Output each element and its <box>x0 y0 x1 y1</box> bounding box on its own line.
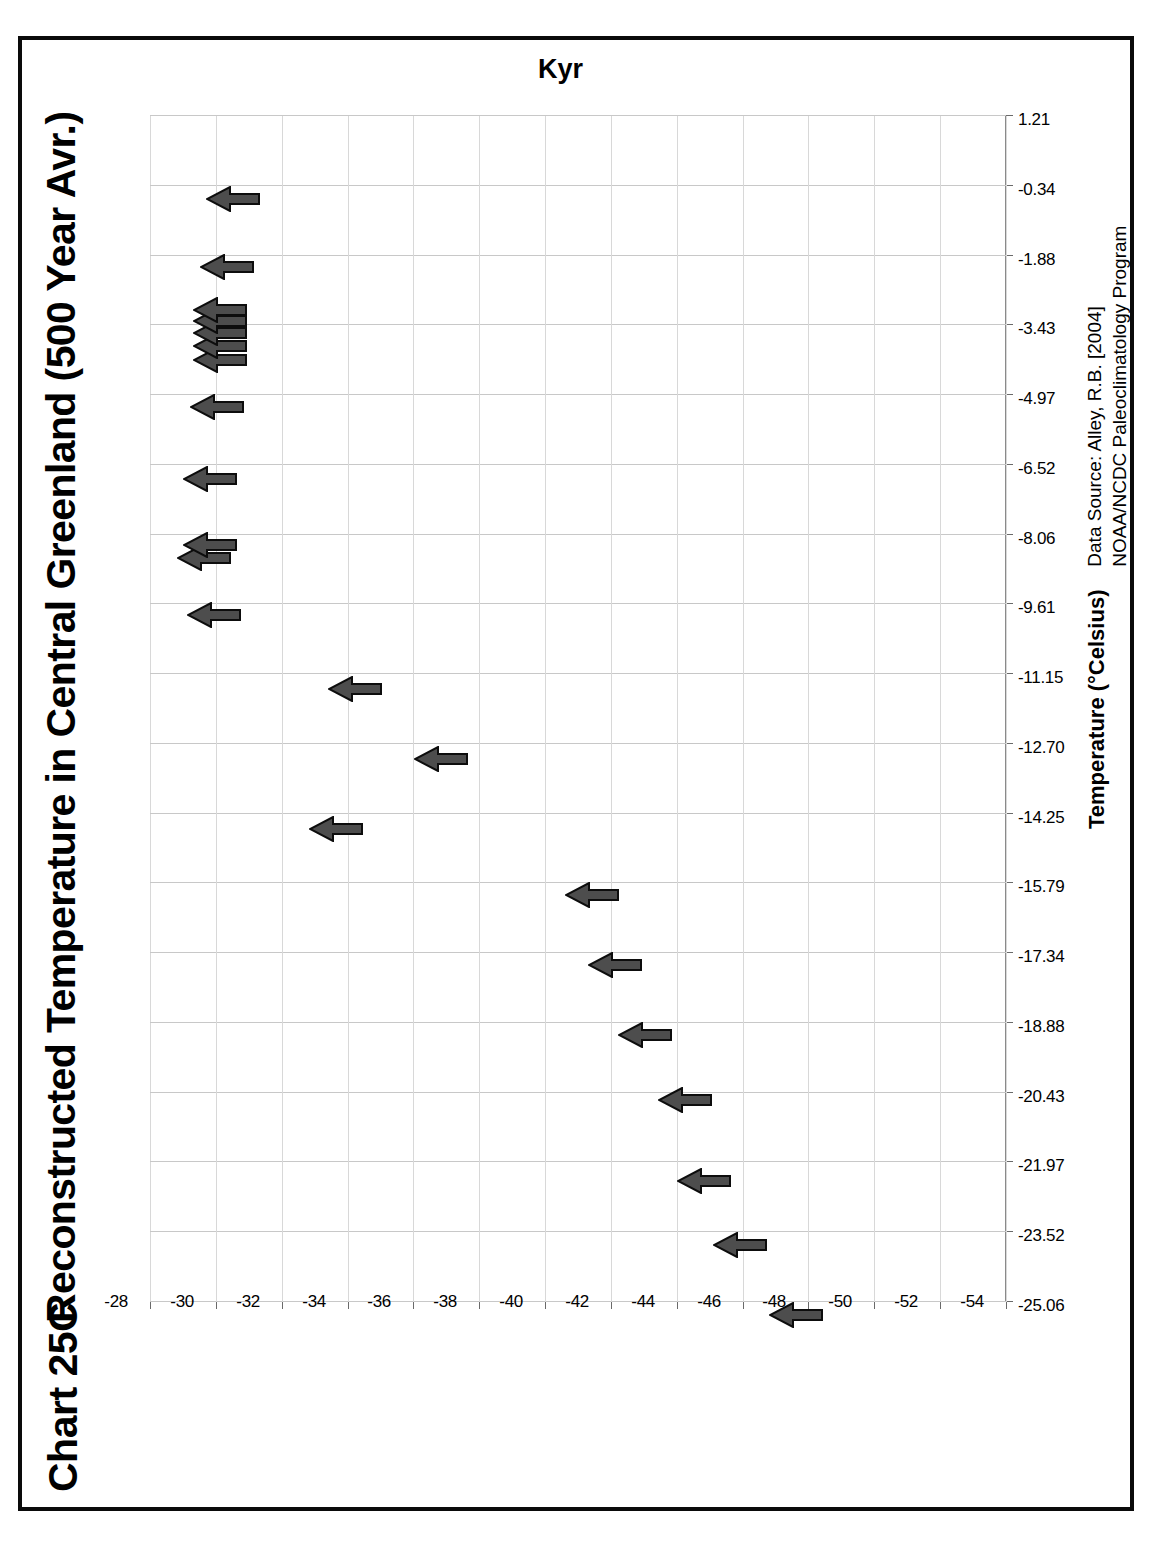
y-gridline <box>479 116 480 1302</box>
y-axis-tick <box>677 1302 678 1309</box>
annotation-arrow-icon <box>618 1021 672 1047</box>
y-axis-tick <box>413 1302 414 1309</box>
x-axis-tick <box>1006 673 1013 674</box>
y-gridline <box>216 116 217 1302</box>
x-axis-tick <box>1006 1022 1013 1023</box>
y-axis-tick-label: -34 <box>302 1292 326 1312</box>
x-axis-tick <box>1006 1301 1013 1302</box>
annotation-arrow-icon <box>206 186 260 212</box>
chart-id-label: Chart 25C <box>40 1302 87 1491</box>
x-gridline <box>150 1091 1006 1092</box>
x-axis-tick-label: -18.88 <box>1018 1017 1064 1037</box>
y-axis-tick <box>545 1302 546 1309</box>
y-axis-tick-label: -32 <box>236 1292 260 1312</box>
x-gridline <box>150 324 1006 325</box>
x-axis-tick-label: -6.52 <box>1018 458 1055 478</box>
x-gridline <box>150 115 1006 116</box>
y-axis-tick <box>1006 1302 1007 1309</box>
y-axis-tick <box>282 1302 283 1309</box>
x-axis-tick <box>1006 812 1013 813</box>
x-gridline <box>150 812 1006 813</box>
plot-background <box>150 116 1006 1302</box>
y-gridline <box>348 116 349 1302</box>
source-line-2: NOAA/NCDC Paleoclimatology Program <box>1107 225 1132 566</box>
x-gridline <box>150 254 1006 255</box>
x-axis-tick <box>1006 603 1013 604</box>
annotation-arrow-icon <box>190 394 244 420</box>
x-axis-tick <box>1006 533 1013 534</box>
x-axis-tick-label: -17.34 <box>1018 947 1064 967</box>
x-gridline <box>150 1161 1006 1162</box>
x-gridline <box>150 184 1006 185</box>
x-gridline <box>150 603 1006 604</box>
y-axis-tick <box>743 1302 744 1309</box>
x-axis-tick-label: -4.97 <box>1018 389 1055 409</box>
annotation-arrow-icon <box>187 601 241 627</box>
y-axis-tick-label: -54 <box>960 1292 984 1312</box>
page-title: Reconstructed Temperature in Central Gre… <box>38 111 85 1322</box>
annotation-arrow-icon <box>565 881 619 907</box>
y-gridline <box>282 116 283 1302</box>
x-axis-tick-label: -12.70 <box>1018 738 1064 758</box>
x-axis-tick <box>1006 254 1013 255</box>
annotation-arrow-icon <box>183 466 237 492</box>
x-axis-tick <box>1006 394 1013 395</box>
y-axis-title: Temperature (°Celsius) <box>1084 589 1110 828</box>
y-axis-tick-label: -42 <box>565 1292 589 1312</box>
x-axis-tick <box>1006 1161 1013 1162</box>
x-gridline <box>150 533 1006 534</box>
x-gridline <box>150 394 1006 395</box>
x-axis-tick <box>1006 952 1013 953</box>
annotation-arrow-icon <box>200 254 254 280</box>
y-axis-tick-label: -46 <box>697 1292 721 1312</box>
x-axis-tick <box>1006 184 1013 185</box>
rotated-chart-canvas: Chart 25C Reconstructed Temperature in C… <box>32 50 1120 1498</box>
x-axis-tick <box>1006 1231 1013 1232</box>
annotation-arrow-icon <box>677 1168 731 1194</box>
annotation-arrow-icon <box>588 951 642 977</box>
y-gridline <box>545 116 546 1302</box>
x-axis-tick-label: -23.52 <box>1018 1226 1064 1246</box>
y-axis-tick-label: -44 <box>631 1292 655 1312</box>
x-axis-tick-label: -8.06 <box>1018 528 1055 548</box>
y-axis-tick <box>216 1302 217 1309</box>
annotation-arrow-icon <box>193 297 247 323</box>
y-axis-tick-label: -38 <box>434 1292 458 1312</box>
x-axis-tick-label: -20.43 <box>1018 1086 1064 1106</box>
annotation-arrow-icon <box>309 816 363 842</box>
y-axis-tick-label: -50 <box>829 1292 853 1312</box>
y-gridline <box>677 116 678 1302</box>
y-axis-tick-label: -52 <box>894 1292 918 1312</box>
y-axis-tick-label: -40 <box>499 1292 523 1312</box>
y-axis-tick <box>479 1302 480 1309</box>
figure-border: Chart 25C Reconstructed Temperature in C… <box>18 36 1134 1511</box>
x-gridline <box>150 463 1006 464</box>
y-axis-tick <box>874 1302 875 1309</box>
y-gridline <box>743 116 744 1302</box>
annotation-arrow-icon <box>183 531 237 557</box>
annotation-arrow-icon <box>769 1302 823 1328</box>
y-axis-tick-label: -30 <box>170 1292 194 1312</box>
x-axis-tick <box>1006 463 1013 464</box>
x-axis-tick-label: -15.79 <box>1018 877 1064 897</box>
y-axis-tick-label: -36 <box>368 1292 392 1312</box>
x-axis-tick-label: -25.06 <box>1018 1296 1064 1316</box>
y-axis-tick <box>150 1302 151 1309</box>
y-gridline <box>874 116 875 1302</box>
x-axis-tick-label: -3.43 <box>1018 319 1055 339</box>
x-axis-tick-label: -11.15 <box>1018 668 1063 688</box>
annotation-arrow-icon <box>713 1232 767 1258</box>
x-axis-tick <box>1006 743 1013 744</box>
x-gridline <box>150 1231 1006 1232</box>
y-gridline <box>808 116 809 1302</box>
plot-area <box>150 116 1006 1302</box>
x-axis-title: Kyr <box>538 54 583 85</box>
y-axis-tick <box>611 1302 612 1309</box>
y-gridline <box>1006 116 1007 1302</box>
annotation-arrow-icon <box>414 746 468 772</box>
data-source-note: Data Source: Alley, R.B. [2004] NOAA/NCD… <box>1082 225 1132 566</box>
x-gridline <box>150 952 1006 953</box>
x-axis-tick-label: 1.21 <box>1018 110 1050 130</box>
x-axis-tick-label: -1.88 <box>1018 249 1055 269</box>
x-gridline <box>150 743 1006 744</box>
